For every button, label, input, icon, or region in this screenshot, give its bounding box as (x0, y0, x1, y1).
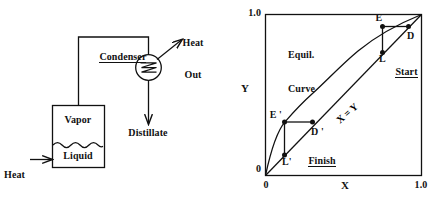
x-axis-label: X (341, 180, 349, 192)
point-label-L-prime: L' (282, 157, 292, 168)
x-axis-max-tick: 1.0 (415, 180, 428, 191)
finish-label: Finish (298, 145, 336, 177)
y-axis-origin-tick: 0 (247, 164, 261, 175)
equil-curve-line1: Equil. (288, 49, 315, 60)
point-label-L: L (379, 54, 386, 65)
condenser-label: Condenser (89, 41, 146, 73)
liquid-label: Liquid (63, 151, 93, 162)
heat-out-line2: Out (183, 70, 204, 81)
vapor-label: Vapor (65, 115, 92, 126)
point-label-D: D (407, 31, 414, 42)
distillate-label: Distillate (128, 128, 167, 139)
y-axis-label: Y (241, 83, 249, 95)
equil-curve-line2: Curve (288, 83, 315, 94)
heat-in-line1: Heat (4, 170, 25, 181)
heat-out-line1: Heat (183, 38, 204, 49)
heat-in-label: Heat In (4, 148, 25, 199)
y-axis-max-tick: 1.0 (243, 8, 261, 19)
point-label-D-prime: D ' (311, 127, 324, 138)
start-label: Start (385, 56, 418, 88)
point-label-E: E (376, 13, 383, 24)
figure-root: Condenser Heat Out Distillate Vapor Liqu… (0, 0, 443, 199)
equilibrium-curve-label: Equil. Curve (288, 27, 315, 117)
point-label-E-prime: E ' (266, 110, 282, 121)
heat-out-arrow (157, 40, 182, 60)
x-axis-origin-tick: 0 (263, 180, 268, 191)
figure-artwork (0, 0, 443, 199)
heat-out-label: Heat Out (183, 16, 204, 102)
